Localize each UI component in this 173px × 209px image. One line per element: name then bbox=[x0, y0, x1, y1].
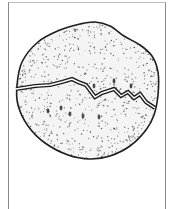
specimen-illustration bbox=[0, 0, 173, 209]
